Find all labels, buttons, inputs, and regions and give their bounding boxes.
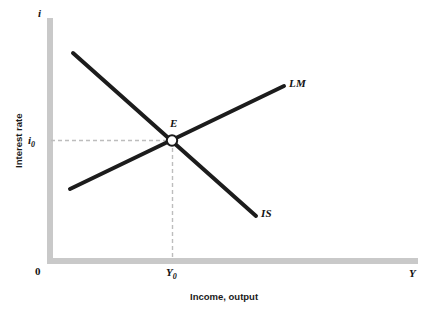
y-axis-tip-label: i bbox=[38, 8, 41, 19]
equilibrium-point-label: E bbox=[170, 118, 177, 129]
x-tick-subscript: 0 bbox=[173, 272, 177, 281]
is-curve-label: IS bbox=[261, 208, 272, 219]
plot-canvas bbox=[0, 0, 429, 316]
is-curve bbox=[73, 53, 256, 216]
origin-label: 0 bbox=[35, 266, 41, 277]
y-tick-label-i0: i0 bbox=[28, 135, 35, 149]
equilibrium-point-marker bbox=[167, 135, 177, 145]
y-tick-subscript: 0 bbox=[31, 140, 35, 149]
lm-curve-label: LM bbox=[289, 78, 306, 89]
x-tick-label-y0: Y0 bbox=[166, 267, 177, 281]
y-axis-title: Interest rate bbox=[14, 106, 24, 176]
x-tick-base: Y bbox=[166, 266, 173, 278]
x-axis-tip-label: Y bbox=[409, 268, 416, 279]
x-axis-title: Income, output bbox=[190, 292, 258, 302]
is-lm-diagram: i Y 0 i0 Y0 E LM IS Interest rate Income… bbox=[0, 0, 429, 316]
